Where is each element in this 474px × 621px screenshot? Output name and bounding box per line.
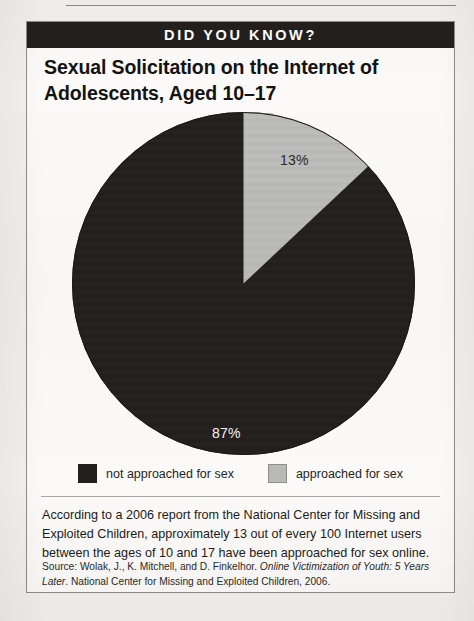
page-top-rule [66, 5, 456, 6]
did-you-know-figure-box: DID YOU KNOW? Sexual Solicitation on the… [26, 21, 455, 593]
pie-label-approached: 13% [280, 152, 309, 168]
banner-title: DID YOU KNOW? [164, 27, 317, 43]
legend-swatch-not-approached [78, 464, 97, 483]
did-you-know-banner: DID YOU KNOW? [27, 22, 454, 48]
legend-item-not-approached: not approached for sex [78, 464, 234, 483]
legend-label-approached: approached for sex [296, 467, 403, 481]
legend-label-not-approached: not approached for sex [106, 467, 234, 481]
pie-circle [72, 112, 415, 455]
pie-label-not-approached: 87% [212, 425, 241, 441]
legend-swatch-approached [268, 464, 287, 483]
legend-item-approached: approached for sex [268, 464, 403, 483]
source-prefix: Source: Wolak, J., K. Mitchell, and D. F… [42, 561, 260, 572]
chart-legend: not approached for sex approached for se… [27, 464, 454, 483]
figure-body-text: According to a 2006 report from the Nati… [42, 506, 442, 563]
pie-chart: 13% 87% [27, 107, 454, 457]
pie-slice-approached [72, 112, 415, 455]
section-divider [41, 496, 440, 497]
source-suffix: . National Center for Missing and Exploi… [65, 576, 330, 587]
figure-source-citation: Source: Wolak, J., K. Mitchell, and D. F… [42, 559, 442, 590]
figure-title: Sexual Solicitation on the Internet of A… [44, 55, 434, 107]
